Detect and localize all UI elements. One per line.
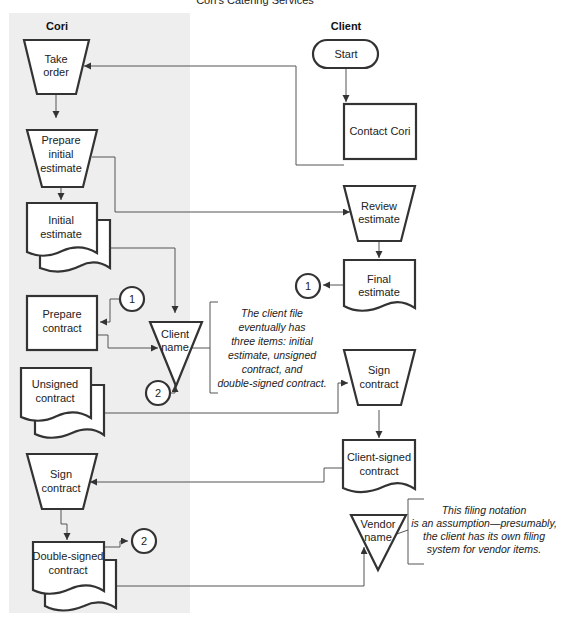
lane-header-cori: Cori [46, 20, 68, 32]
vendor-file-annotation: This filing notation is an assumption—pr… [411, 504, 557, 555]
svg-text:Vendor: Vendor [361, 518, 396, 530]
svg-text:eventually has: eventually has [238, 321, 306, 333]
svg-text:Client-signed: Client-signed [347, 451, 411, 463]
svg-text:estimate: estimate [40, 162, 82, 174]
svg-text:contract: contract [359, 465, 398, 477]
svg-text:Unsigned: Unsigned [32, 378, 78, 390]
review-estimate-step: Review estimate [344, 186, 415, 241]
svg-text:Sign: Sign [50, 468, 72, 480]
svg-text:contract: contract [35, 392, 74, 404]
svg-text:estimate: estimate [40, 228, 82, 240]
connector-1-client: 1 [296, 274, 320, 298]
client-signed-contract-document: Client-signed contract [343, 440, 415, 492]
initial-estimate-document: Initial estimate [27, 203, 110, 272]
svg-text:contract: contract [41, 482, 80, 494]
svg-text:contract: contract [48, 564, 87, 576]
diagram-title: Cori's Catering Services [196, 0, 314, 6]
prepare-contract-process: Prepare contract [27, 296, 97, 350]
svg-text:name: name [161, 341, 189, 353]
svg-text:Start: Start [334, 48, 357, 60]
connector-2-cori-bottom: 2 [132, 529, 156, 553]
svg-text:double-signed contract.: double-signed contract. [217, 377, 326, 389]
svg-text:2: 2 [155, 387, 161, 399]
svg-text:estimate, unsigned: estimate, unsigned [228, 349, 317, 361]
svg-text:Client: Client [161, 328, 189, 340]
connector-1-cori: 1 [120, 287, 144, 311]
svg-text:Take: Take [44, 53, 67, 65]
vendor-name-file: Vendor name [351, 515, 406, 570]
svg-text:Prepare: Prepare [42, 308, 81, 320]
svg-text:order: order [43, 66, 69, 78]
svg-text:Initial: Initial [48, 214, 74, 226]
svg-text:The client file: The client file [241, 307, 303, 319]
contact-cori-process: Contact Cori [344, 104, 416, 159]
svg-text:contract, and: contract, and [242, 363, 304, 375]
flowchart-canvas: Cori's Catering Services Cori Client Tak… [0, 0, 574, 629]
start-terminator: Start [313, 40, 378, 68]
double-signed-contract-document: Double-signed contract [33, 542, 116, 611]
svg-text:initial: initial [48, 148, 73, 160]
svg-text:is an assumption—presumably,: is an assumption—presumably, [411, 517, 557, 529]
svg-text:Review: Review [361, 200, 397, 212]
svg-text:2: 2 [141, 535, 147, 547]
final-estimate-document: Final estimate [344, 260, 415, 311]
svg-text:contract: contract [359, 378, 398, 390]
svg-text:estimate: estimate [358, 213, 400, 225]
client-file-annotation: The client file eventually has three ite… [217, 307, 326, 389]
svg-text:Final: Final [367, 273, 391, 285]
svg-text:the client has its own filing: the client has its own filing [423, 530, 545, 542]
svg-text:Sign: Sign [368, 364, 390, 376]
svg-text:three items: initial: three items: initial [231, 335, 313, 347]
svg-text:Prepare: Prepare [41, 134, 80, 146]
svg-text:contract: contract [42, 322, 81, 334]
svg-text:1: 1 [305, 280, 311, 292]
svg-text:estimate: estimate [358, 286, 400, 298]
client-sign-contract-step: Sign contract [344, 350, 415, 405]
svg-text:Contact Cori: Contact Cori [349, 125, 410, 137]
svg-text:Double-signed: Double-signed [33, 550, 104, 562]
svg-text:This filing notation: This filing notation [442, 504, 527, 516]
lane-header-client: Client [331, 20, 362, 32]
connector-2-cori-top: 2 [146, 381, 170, 405]
svg-text:name: name [364, 531, 392, 543]
svg-text:system for vendor items.: system for vendor items. [427, 543, 541, 555]
svg-text:1: 1 [129, 293, 135, 305]
